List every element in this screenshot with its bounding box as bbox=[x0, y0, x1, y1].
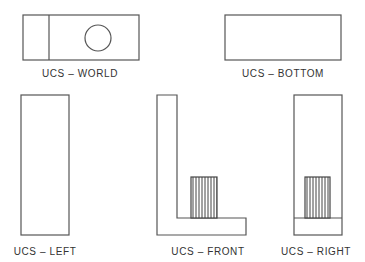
right-label: UCS – RIGHT bbox=[281, 246, 351, 257]
world-hole-circle bbox=[85, 25, 111, 51]
right-hatched-boss bbox=[305, 177, 330, 218]
bottom-label: UCS – BOTTOM bbox=[242, 68, 324, 79]
view-left: UCS – LEFT bbox=[14, 95, 77, 257]
world-outline bbox=[23, 15, 139, 60]
front-hatched-boss bbox=[191, 177, 217, 218]
left-outline bbox=[21, 95, 69, 235]
view-bottom: UCS – BOTTOM bbox=[225, 15, 341, 79]
world-label: UCS – WORLD bbox=[42, 68, 118, 79]
view-front: UCS – FRONT bbox=[157, 95, 246, 257]
bottom-outline bbox=[225, 15, 341, 60]
view-right: UCS – RIGHT bbox=[281, 95, 351, 257]
view-world: UCS – WORLD bbox=[23, 15, 139, 79]
ucs-views-diagram: UCS – WORLD UCS – BOTTOM UCS – LEFT UCS … bbox=[0, 0, 365, 262]
left-label: UCS – LEFT bbox=[14, 246, 77, 257]
front-label: UCS – FRONT bbox=[171, 246, 244, 257]
